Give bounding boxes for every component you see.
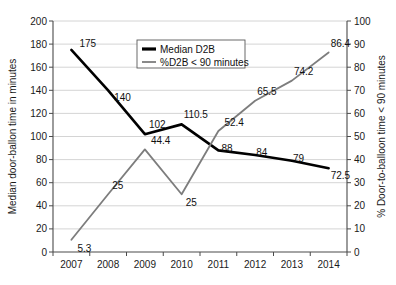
data-point-label: 84 <box>256 147 268 158</box>
y-axis-left-tick-label: 40 <box>36 200 48 211</box>
y-axis-right-tick-label: 10 <box>354 223 366 234</box>
data-point-label: 110.5 <box>184 109 209 120</box>
y-axis-left-tick-label: 20 <box>36 223 48 234</box>
y-axis-left-tick-label: 0 <box>41 247 47 258</box>
y-axis-left-tick-label: 120 <box>30 108 47 119</box>
x-axis-tick-label: 2010 <box>171 259 194 270</box>
y-axis-left-tick-label: 60 <box>36 177 48 188</box>
y-axis-left-tick-label: 140 <box>30 85 47 96</box>
y-axis-left-tick-label: 160 <box>30 62 47 73</box>
y-axis-right-tick-label: 60 <box>354 108 366 119</box>
y-axis-right-tick-label: 0 <box>354 247 360 258</box>
x-axis-tick-label: 2008 <box>97 259 120 270</box>
y-axis-left-tick-label: 180 <box>30 39 47 50</box>
data-point-label: 88 <box>221 143 233 154</box>
data-point-label: 86.4 <box>331 38 351 49</box>
data-point-label: 74.2 <box>294 66 314 77</box>
data-point-label: 44.4 <box>151 135 171 146</box>
legend-label: Median D2B <box>160 44 215 55</box>
data-point-label: 175 <box>79 38 96 49</box>
y-axis-right-title: % Door-to-balloon time < 90 minutes <box>376 55 387 218</box>
series-pct-d2b-under-90 <box>71 52 328 239</box>
data-point-label: 102 <box>149 119 166 130</box>
x-axis: 20072008200920102011201220132014 <box>53 252 347 270</box>
y-axis-right-tick-label: 50 <box>354 131 366 142</box>
data-point-label: 5.3 <box>77 243 91 254</box>
y-axis-right-tick-label: 30 <box>354 177 366 188</box>
data-point-label: 72.5 <box>331 170 351 181</box>
y-axis-left-tick-label: 80 <box>36 154 48 165</box>
x-axis-tick-label: 2007 <box>60 259 83 270</box>
x-axis-tick-label: 2012 <box>244 259 267 270</box>
y-axis-right-tick-label: 40 <box>354 154 366 165</box>
x-axis-tick-label: 2013 <box>281 259 304 270</box>
series-line <box>71 52 328 239</box>
data-point-label: 65.5 <box>257 86 277 97</box>
x-axis-tick-label: 2011 <box>208 259 230 270</box>
y-axis-left-tick-label: 100 <box>30 131 47 142</box>
line-chart: 0204060801001201401601802000102030405060… <box>0 0 396 285</box>
data-point-label: 79 <box>293 153 305 164</box>
data-point-label: 25 <box>112 180 124 191</box>
data-point-label: 140 <box>114 92 131 103</box>
data-point-label: 52.4 <box>224 117 244 128</box>
chart-container: 0204060801001201401601802000102030405060… <box>0 0 396 285</box>
y-axis-right: 0102030405060708090100 <box>347 16 371 258</box>
y-axis-right-tick-label: 90 <box>354 39 366 50</box>
legend-label: %D2B < 90 minutes <box>160 57 249 68</box>
y-axis-left: 020406080100120140160180200 <box>30 16 53 258</box>
x-axis-tick-label: 2009 <box>134 259 157 270</box>
y-axis-right-tick-label: 20 <box>354 200 366 211</box>
x-axis-tick-label: 2014 <box>318 259 341 270</box>
y-axis-left-tick-label: 200 <box>30 16 47 27</box>
y-axis-left-title: Median door-ballon time in minutes <box>7 59 18 215</box>
y-axis-right-tick-label: 100 <box>354 16 371 27</box>
data-point-label: 25 <box>186 197 198 208</box>
legend: Median D2B%D2B < 90 minutes <box>137 40 249 68</box>
y-axis-right-tick-label: 80 <box>354 62 366 73</box>
y-axis-right-tick-label: 70 <box>354 85 366 96</box>
